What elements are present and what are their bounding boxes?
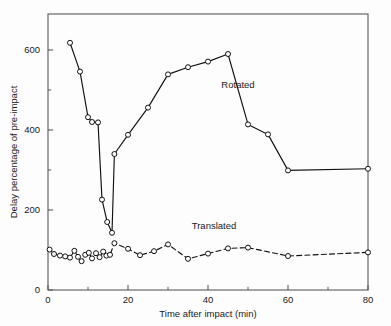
data-point-marker bbox=[138, 253, 143, 258]
x-tick-label: 80 bbox=[363, 294, 374, 305]
data-point-marker bbox=[186, 256, 191, 261]
data-point-marker bbox=[78, 69, 83, 74]
series-translated bbox=[47, 241, 370, 264]
data-point-marker bbox=[246, 122, 251, 127]
data-point-marker bbox=[206, 59, 211, 64]
series-line bbox=[70, 43, 368, 233]
data-point-marker bbox=[47, 247, 52, 252]
series-annotation-rotated: Rotated bbox=[221, 79, 254, 90]
data-point-marker bbox=[166, 242, 171, 247]
data-point-marker bbox=[146, 105, 151, 110]
data-point-marker bbox=[96, 120, 101, 125]
data-point-marker bbox=[86, 250, 91, 255]
data-point-marker bbox=[76, 254, 81, 259]
data-point-marker bbox=[110, 230, 115, 235]
data-point-marker bbox=[86, 115, 91, 120]
chart-figure: 020406080 0200400600 RotatedTranslated T… bbox=[0, 0, 391, 326]
data-point-marker bbox=[112, 241, 117, 246]
data-point-marker bbox=[105, 220, 110, 225]
data-point-marker bbox=[68, 40, 73, 45]
y-tick-label: 200 bbox=[24, 204, 40, 215]
x-tick-label: 60 bbox=[283, 294, 294, 305]
data-point-marker bbox=[112, 152, 117, 157]
plot-border bbox=[48, 14, 368, 290]
x-axis-title: Time after impact (min) bbox=[159, 308, 256, 319]
line-chart: 020406080 0200400600 RotatedTranslated T… bbox=[0, 0, 391, 326]
data-point-marker bbox=[126, 246, 131, 251]
series-annotations: RotatedTranslated bbox=[192, 79, 255, 231]
data-point-marker bbox=[186, 65, 191, 70]
plot-frame bbox=[48, 14, 368, 290]
data-point-marker bbox=[226, 246, 231, 251]
data-point-marker bbox=[90, 256, 95, 261]
x-axis-ticks bbox=[48, 285, 368, 290]
data-point-marker bbox=[68, 255, 73, 260]
data-point-marker bbox=[58, 253, 63, 258]
x-tick-label: 40 bbox=[203, 294, 214, 305]
data-point-marker bbox=[226, 52, 231, 57]
data-point-marker bbox=[72, 248, 77, 253]
y-tick-label: 400 bbox=[24, 124, 40, 135]
data-point-marker bbox=[366, 250, 371, 255]
data-point-marker bbox=[108, 252, 113, 257]
x-tick-label: 20 bbox=[123, 294, 134, 305]
series-rotated bbox=[68, 40, 371, 235]
data-point-marker bbox=[97, 255, 102, 260]
series-annotation-translated: Translated bbox=[192, 220, 237, 231]
data-point-marker bbox=[90, 120, 95, 125]
data-point-marker bbox=[286, 254, 291, 259]
data-point-marker bbox=[166, 72, 171, 77]
data-point-marker bbox=[366, 166, 371, 171]
data-point-marker bbox=[100, 197, 105, 202]
data-point-marker bbox=[79, 259, 84, 264]
data-point-marker bbox=[266, 132, 271, 137]
data-point-marker bbox=[152, 249, 157, 254]
data-point-marker bbox=[63, 254, 68, 259]
data-point-marker bbox=[246, 245, 251, 250]
y-tick-label: 0 bbox=[35, 284, 40, 295]
data-point-marker bbox=[286, 168, 291, 173]
data-point-marker bbox=[52, 252, 57, 257]
x-tick-label: 0 bbox=[45, 294, 50, 305]
x-axis-tick-labels: 020406080 bbox=[45, 294, 373, 305]
y-axis-title: Delay percentage of pre-impact bbox=[8, 85, 19, 218]
data-point-marker bbox=[126, 132, 131, 137]
y-tick-label: 600 bbox=[24, 44, 40, 55]
y-axis-tick-labels: 0200400600 bbox=[24, 44, 40, 295]
data-point-marker bbox=[206, 251, 211, 256]
